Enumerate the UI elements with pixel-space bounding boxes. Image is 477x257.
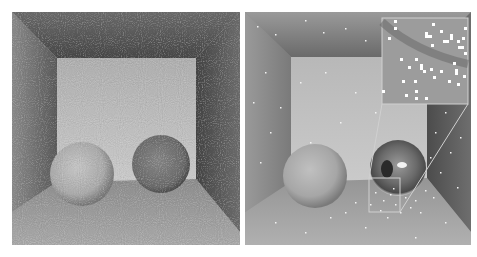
left-render-panel — [12, 12, 240, 245]
right-render-panel — [245, 12, 471, 245]
left-cornell-box-image — [12, 12, 240, 245]
diffuse-sphere — [283, 144, 347, 208]
mirror-sphere — [370, 140, 426, 196]
right-cornell-box-image — [245, 12, 471, 245]
